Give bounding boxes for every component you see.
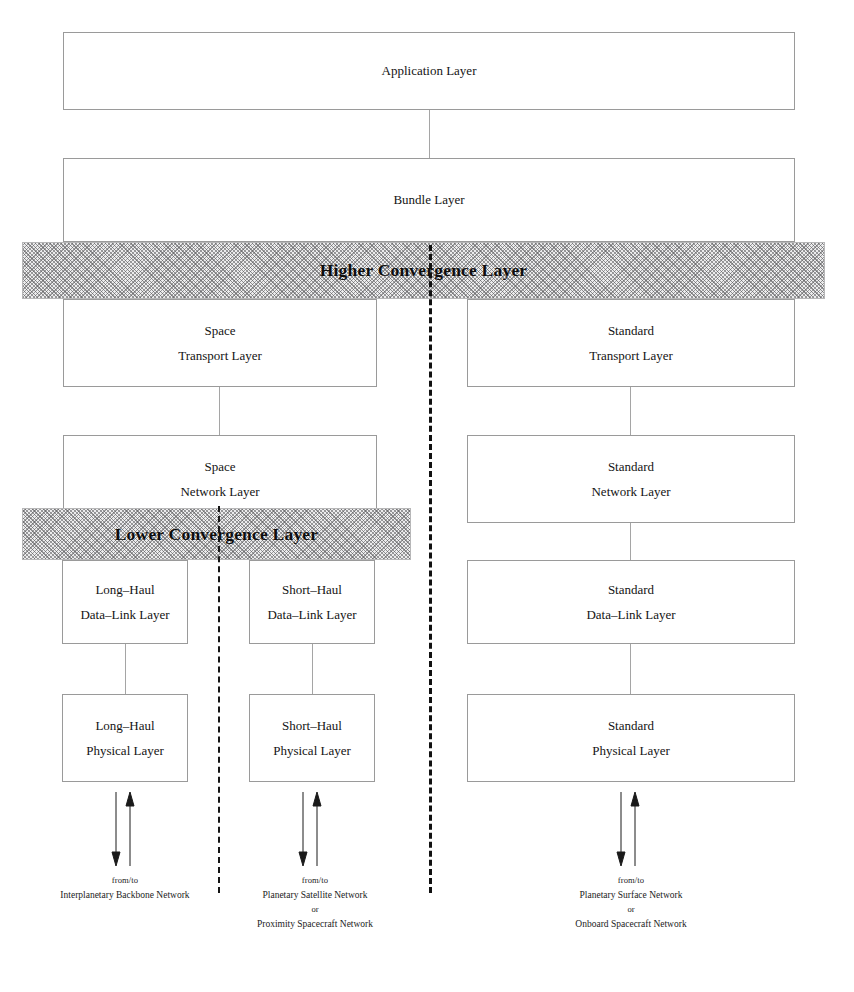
connector-short-haul-datalink-physical <box>312 644 313 694</box>
box-short-haul-physical-layer: Short–Haul Physical Layer <box>249 694 375 782</box>
connector-long-haul-datalink-physical <box>125 644 126 694</box>
divider-long-short-haul <box>218 506 220 893</box>
caption-standard-line1: Planetary Surface Network <box>511 888 751 903</box>
box-long-haul-physical-layer: Long–Haul Physical Layer <box>62 694 188 782</box>
box-application-layer: Application Layer <box>63 32 795 110</box>
caption-standard-fromto: from/to <box>511 874 751 888</box>
box-standard-transport-layer-line2: Transport Layer <box>589 343 673 368</box>
divider-space-standard <box>429 245 432 893</box>
connector-space-transport-network <box>219 387 220 435</box>
box-standard-data-link-layer-line1: Standard <box>608 577 654 602</box>
box-space-transport-layer: Space Transport Layer <box>63 299 377 387</box>
box-long-haul-data-link-layer: Long–Haul Data–Link Layer <box>62 560 188 644</box>
caption-standard-line2: Onboard Spacecraft Network <box>511 917 751 932</box>
box-bundle-layer-line1: Bundle Layer <box>393 187 464 212</box>
box-long-haul-physical-layer-line1: Long–Haul <box>95 713 154 738</box>
connector-standard-datalink-physical <box>630 644 631 694</box>
caption-standard-network: from/to Planetary Surface Network or Onb… <box>511 874 751 933</box>
caption-short-haul-or: or <box>195 903 435 917</box>
box-standard-physical-layer-line1: Standard <box>608 713 654 738</box>
caption-short-haul-line2: Proximity Spacecraft Network <box>195 917 435 932</box>
box-short-haul-physical-layer-line1: Short–Haul <box>282 713 342 738</box>
caption-short-haul-fromto: from/to <box>195 874 435 888</box>
box-standard-physical-layer-line2: Physical Layer <box>592 738 670 763</box>
box-short-haul-data-link-layer-line1: Short–Haul <box>282 577 342 602</box>
box-long-haul-data-link-layer-line1: Long–Haul <box>95 577 154 602</box>
box-standard-network-layer-line1: Standard <box>608 454 654 479</box>
connector-application-bundle <box>429 110 430 158</box>
box-space-network-layer-line1: Space <box>204 454 235 479</box>
box-bundle-layer: Bundle Layer <box>63 158 795 242</box>
box-long-haul-data-link-layer-line2: Data–Link Layer <box>80 602 169 627</box>
box-space-transport-layer-line2: Transport Layer <box>178 343 262 368</box>
box-standard-transport-layer-line1: Standard <box>608 318 654 343</box>
scan-top-ghost-text <box>0 0 854 10</box>
connector-standard-transport-network <box>630 387 631 435</box>
connector-standard-network-datalink <box>630 523 631 560</box>
box-application-layer-line1: Application Layer <box>382 58 477 83</box>
protocol-stack-diagram: Application Layer Bundle Layer Higher Co… <box>0 0 854 992</box>
box-standard-data-link-layer: Standard Data–Link Layer <box>467 560 795 644</box>
box-short-haul-data-link-layer-line2: Data–Link Layer <box>267 602 356 627</box>
arrows-short-haul-external <box>297 790 329 868</box>
caption-short-haul-line1: Planetary Satellite Network <box>195 888 435 903</box>
caption-standard-or: or <box>511 903 751 917</box>
arrows-standard-external <box>615 790 647 868</box>
arrows-long-haul-external <box>110 790 142 868</box>
box-short-haul-physical-layer-line2: Physical Layer <box>273 738 351 763</box>
band-lower-convergence-layer: Lower Convergence Layer <box>22 508 411 560</box>
box-space-transport-layer-line1: Space <box>204 318 235 343</box>
band-higher-convergence-layer-label: Higher Convergence Layer <box>320 260 528 281</box>
band-higher-convergence-layer: Higher Convergence Layer <box>22 242 825 299</box>
box-short-haul-data-link-layer: Short–Haul Data–Link Layer <box>249 560 375 644</box>
box-standard-physical-layer: Standard Physical Layer <box>467 694 795 782</box>
box-standard-data-link-layer-line2: Data–Link Layer <box>586 602 675 627</box>
box-space-network-layer-line2: Network Layer <box>180 479 259 504</box>
caption-short-haul-network: from/to Planetary Satellite Network or P… <box>195 874 435 933</box>
box-long-haul-physical-layer-line2: Physical Layer <box>86 738 164 763</box>
box-standard-network-layer: Standard Network Layer <box>467 435 795 523</box>
band-lower-convergence-layer-label: Lower Convergence Layer <box>115 524 319 545</box>
box-standard-network-layer-line2: Network Layer <box>591 479 670 504</box>
box-standard-transport-layer: Standard Transport Layer <box>467 299 795 387</box>
